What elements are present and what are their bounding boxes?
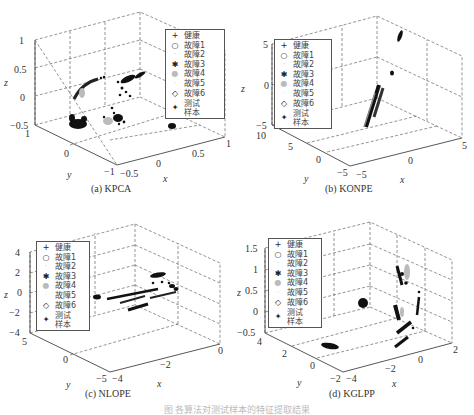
svg-text:0: 0 xyxy=(408,155,413,166)
subplot-konpe: 5 0 −5 10 5 0 −5 −5 0 5 z y x +健康 ○故障1 ·… xyxy=(237,0,474,200)
svg-text:x: x xyxy=(399,174,405,185)
legend-item: ·故障5 xyxy=(272,288,318,298)
legend-item: +健康 xyxy=(40,243,86,253)
svg-text:10: 10 xyxy=(256,130,266,141)
dot-marker-icon: · xyxy=(272,288,284,298)
dot-marker-icon: · xyxy=(40,291,52,301)
svg-text:−0.5: −0.5 xyxy=(120,168,138,179)
legend-item: ◇故障6 xyxy=(272,298,318,308)
svg-text:0.5: 0.5 xyxy=(245,285,258,296)
svg-text:1: 1 xyxy=(253,264,258,275)
svg-text:0: 0 xyxy=(20,92,25,103)
subplot-caption: (c) NLOPE xyxy=(85,388,131,399)
svg-text:2: 2 xyxy=(282,348,287,359)
diamond-marker-icon: ◇ xyxy=(40,301,52,311)
legend-item: ●故障4 xyxy=(40,281,86,291)
svg-text:0: 0 xyxy=(156,158,161,169)
subplot-nlope: 4 2 0 −2 −4 5 0 −5 −4 −2 0 z y x +健康 ○故障… xyxy=(0,200,237,400)
svg-text:−4: −4 xyxy=(346,373,357,384)
svg-text:0: 0 xyxy=(64,148,69,159)
legend-item: +健康 xyxy=(272,240,318,250)
svg-text:0: 0 xyxy=(316,154,321,165)
legend-item: ✦测试 样本 xyxy=(278,108,328,127)
filled-circle-marker-icon: ● xyxy=(272,278,284,288)
svg-text:4: 4 xyxy=(15,247,20,258)
svg-text:5: 5 xyxy=(263,39,268,50)
svg-text:y: y xyxy=(303,173,309,184)
dot-marker-icon: · xyxy=(40,262,52,272)
legend-item: ✱故障3 xyxy=(272,269,318,279)
star-marker-icon: ✱ xyxy=(40,272,52,282)
svg-text:−1: −1 xyxy=(104,166,115,177)
legend-kpca: +健康 ○故障1 ·故障2 ✱故障3 ●故障4 ·故障5 ◇故障6 ✦测试 样本 xyxy=(165,29,225,119)
svg-text:−2: −2 xyxy=(9,307,20,318)
filled-star-marker-icon: ✦ xyxy=(40,315,52,325)
legend-item: ✦测试 样本 xyxy=(272,307,318,326)
star-marker-icon: ✱ xyxy=(278,70,290,80)
legend-item: ◇故障6 xyxy=(278,99,328,109)
legend-item: ●故障4 xyxy=(169,69,221,79)
legend-nlope: +健康 ○故障1 ·故障2 ✱故障3 ●故障4 ·故障5 ◇故障6 ✦测试 样本 xyxy=(36,241,90,331)
svg-text:0: 0 xyxy=(310,360,315,371)
legend-item: ✦测试 样本 xyxy=(40,310,86,329)
svg-text:2: 2 xyxy=(15,267,20,278)
legend-item: ✦测试 样本 xyxy=(169,98,221,117)
dot-marker-icon: · xyxy=(272,259,284,269)
legend-item: ◇故障6 xyxy=(40,301,86,311)
svg-text:−2: −2 xyxy=(160,359,171,370)
star-marker-icon: ✱ xyxy=(169,60,181,70)
svg-text:y: y xyxy=(66,169,72,180)
circle-marker-icon: ○ xyxy=(169,41,181,51)
legend-item: ·故障5 xyxy=(169,79,221,89)
svg-text:x: x xyxy=(391,378,397,389)
dot-marker-icon: · xyxy=(278,89,290,99)
legend-item: ·故障2 xyxy=(40,262,86,272)
subplot-kglpp: 1.5 1 0.5 0 −0.5 4 2 0 −2 −4 −2 0 2 z y … xyxy=(237,200,474,400)
svg-text:5: 5 xyxy=(22,336,27,347)
filled-circle-marker-icon: ● xyxy=(278,79,290,89)
svg-text:0: 0 xyxy=(253,306,258,317)
circle-marker-icon: ○ xyxy=(272,250,284,260)
plus-marker-icon: + xyxy=(40,243,52,253)
diamond-marker-icon: ◇ xyxy=(272,298,284,308)
dot-marker-icon: · xyxy=(169,50,181,60)
svg-text:y: y xyxy=(65,379,71,390)
subplot-caption: (d) KGLPP xyxy=(329,388,375,399)
legend-item: ◇故障6 xyxy=(169,89,221,99)
svg-text:1: 1 xyxy=(226,138,231,149)
svg-text:0: 0 xyxy=(17,287,22,298)
svg-text:0.5: 0.5 xyxy=(14,64,27,75)
legend-item: ✱故障3 xyxy=(169,60,221,70)
legend-kglpp: +健康 ○故障1 ·故障2 ✱故障3 ●故障4 ·故障5 ◇故障6 ✦测试 样本 xyxy=(268,238,322,328)
plus-marker-icon: + xyxy=(169,31,181,41)
svg-text:5: 5 xyxy=(288,141,293,152)
svg-text:z: z xyxy=(237,287,241,298)
legend-item: ✱故障3 xyxy=(278,70,328,80)
legend-item: ·故障2 xyxy=(278,60,328,70)
legend-item: ·故障2 xyxy=(169,50,221,60)
svg-text:z: z xyxy=(3,77,8,88)
legend-item: ·故障5 xyxy=(278,89,328,99)
filled-circle-marker-icon: ● xyxy=(40,281,52,291)
svg-text:1: 1 xyxy=(19,35,24,46)
figure-caption: 图 各算法对测试样本的特征提取结果 xyxy=(0,403,474,415)
svg-text:−2: −2 xyxy=(385,363,396,374)
svg-text:−5: −5 xyxy=(337,167,348,178)
legend-item: ○故障1 xyxy=(272,250,318,260)
diamond-marker-icon: ◇ xyxy=(169,89,181,99)
legend-item: ○故障1 xyxy=(169,41,221,51)
svg-text:x: x xyxy=(162,173,168,184)
svg-text:0: 0 xyxy=(63,354,68,365)
svg-text:−5: −5 xyxy=(96,373,107,384)
legend-item: ·故障2 xyxy=(272,259,318,269)
svg-text:0.5: 0.5 xyxy=(192,148,205,159)
legend-konpe: +健康 ○故障1 ·故障2 ✱故障3 ●故障4 ·故障5 ◇故障6 ✦测试 样本 xyxy=(274,39,332,129)
svg-text:y: y xyxy=(296,377,302,388)
legend-item: ✱故障3 xyxy=(40,272,86,282)
dot-marker-icon: · xyxy=(169,79,181,89)
filled-star-marker-icon: ✦ xyxy=(278,113,290,123)
legend-item: ●故障4 xyxy=(278,79,328,89)
legend-item: ·故障5 xyxy=(40,291,86,301)
svg-text:1.5: 1.5 xyxy=(245,243,258,254)
diamond-marker-icon: ◇ xyxy=(278,99,290,109)
